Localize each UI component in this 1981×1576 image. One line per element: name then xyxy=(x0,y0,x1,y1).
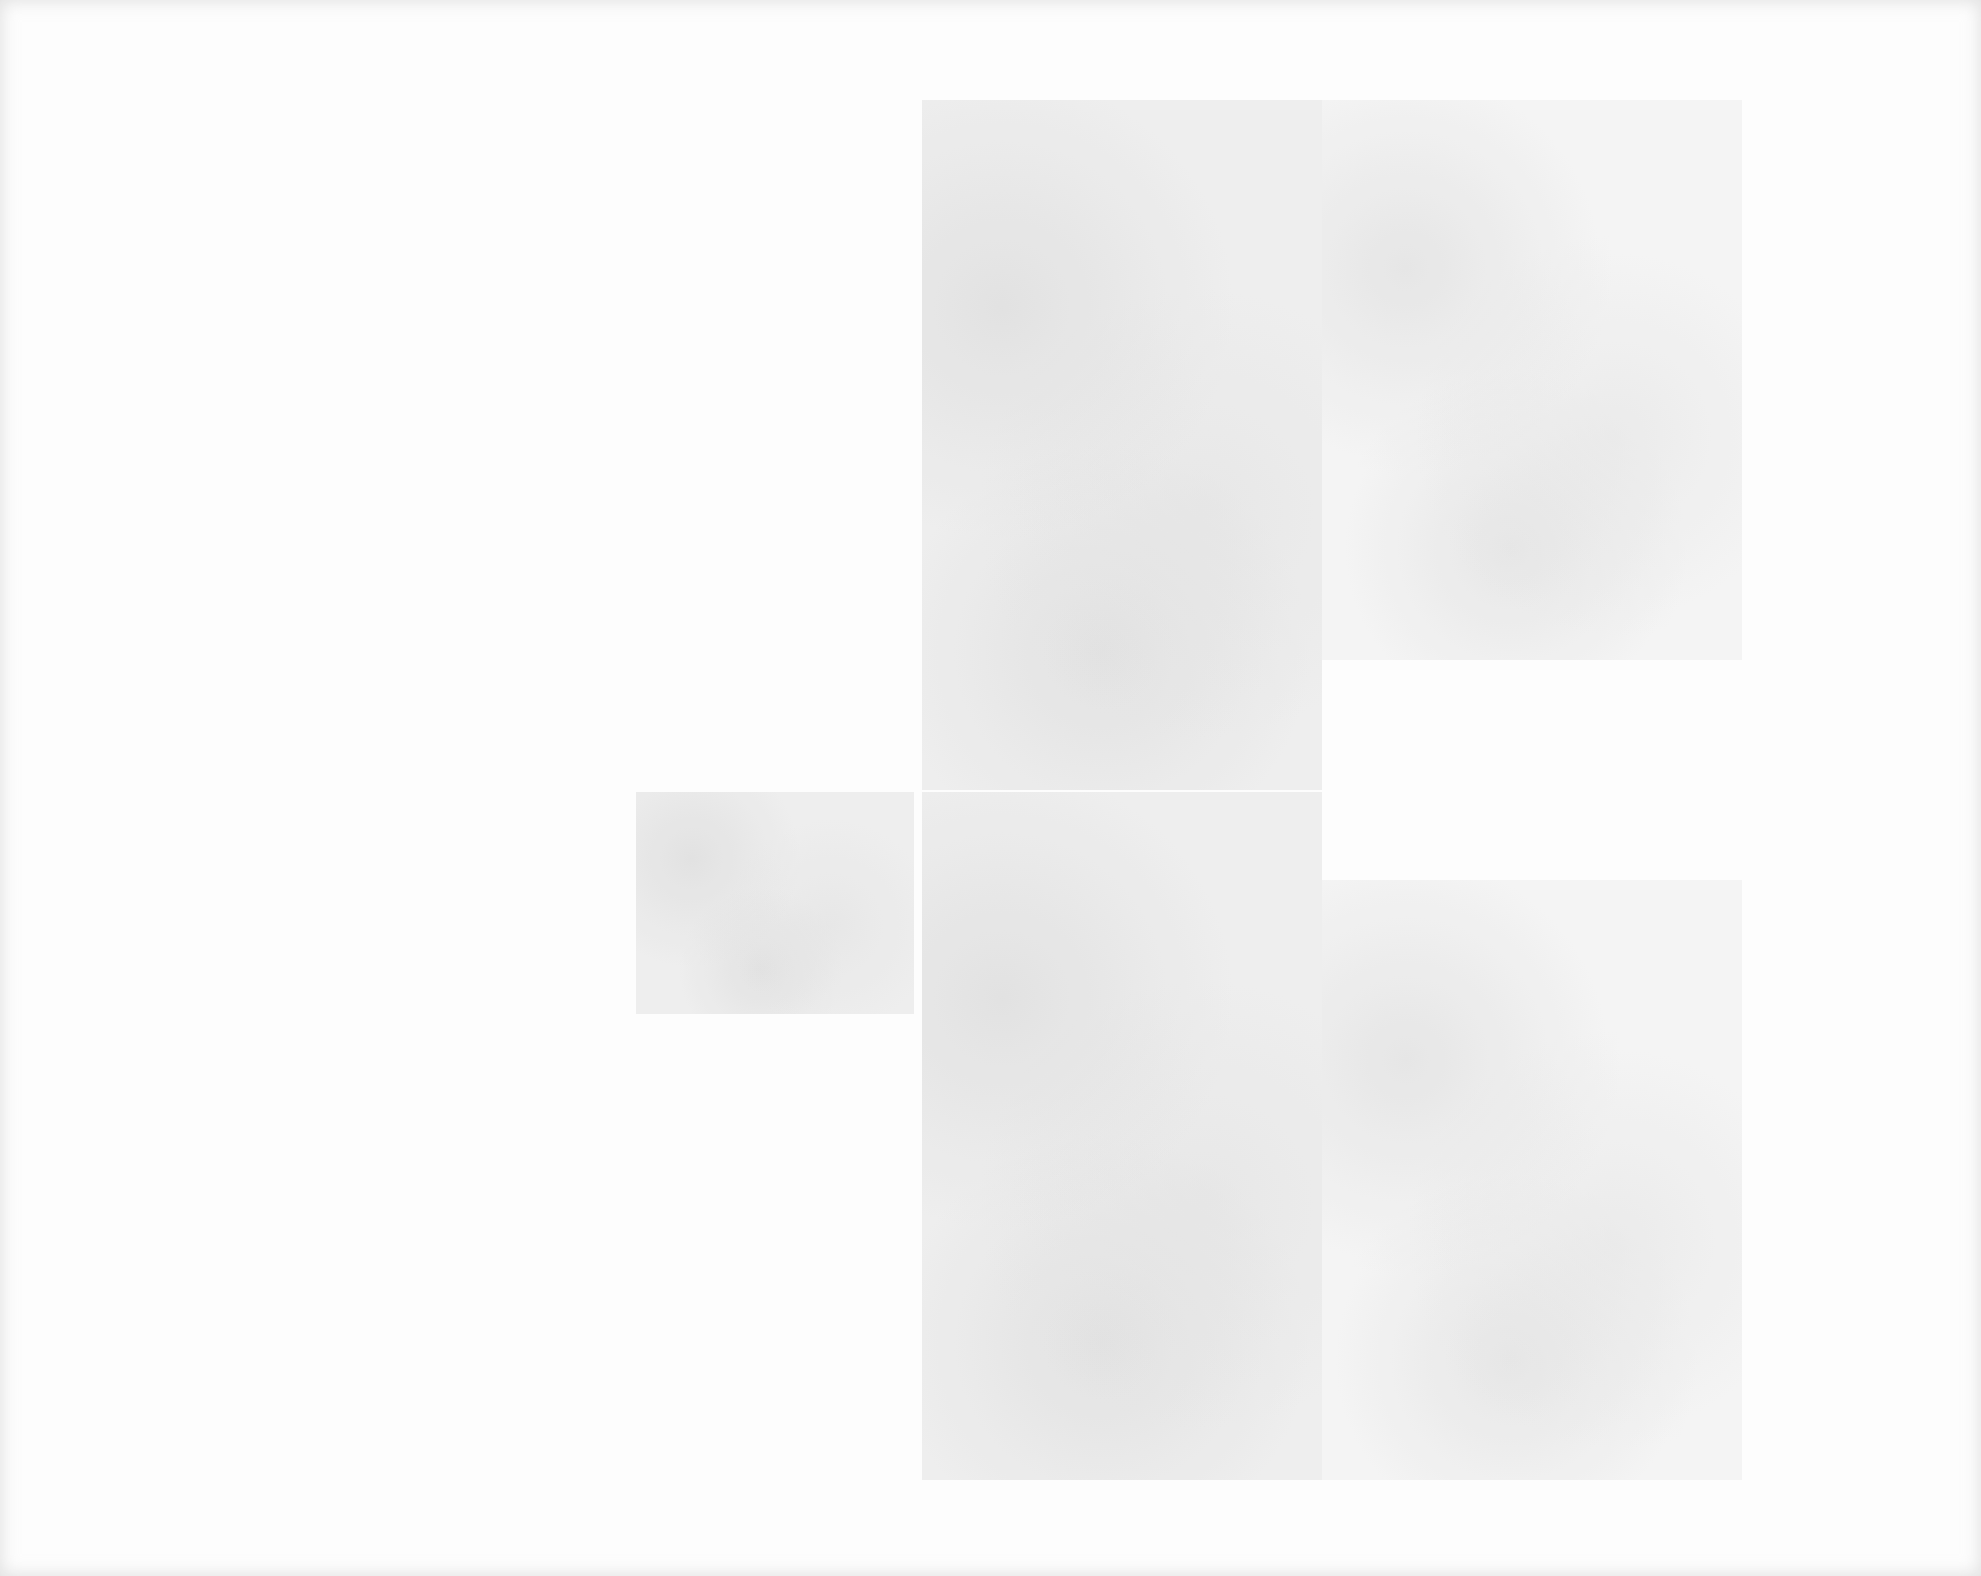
lower-right-shaded-block xyxy=(1322,880,1742,1480)
upper-right-shaded-block xyxy=(1322,100,1742,660)
small-left-shaded-block xyxy=(636,792,914,1014)
lower-shaded-block xyxy=(922,792,1322,1480)
upper-shaded-block xyxy=(922,100,1322,790)
